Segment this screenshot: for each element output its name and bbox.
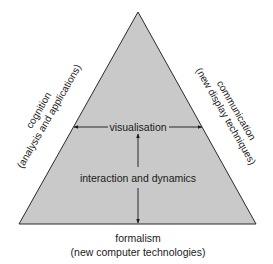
formalism-label: formalism bbox=[115, 232, 161, 244]
triangle-diagram: visualisation interaction and dynamics c… bbox=[0, 0, 273, 264]
visualisation-label: visualisation bbox=[109, 121, 166, 133]
triangle-shape bbox=[19, 12, 256, 224]
interaction-dynamics-label: interaction and dynamics bbox=[80, 172, 196, 184]
formalism-subtitle: (new computer technologies) bbox=[71, 246, 206, 258]
